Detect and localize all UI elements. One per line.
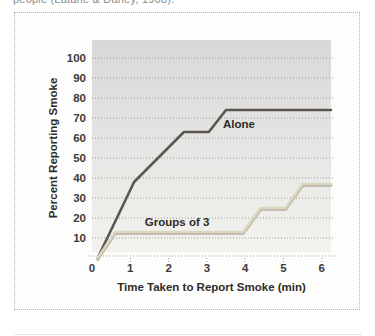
page: { "caption_top": "people (Latané & Darle…: [0, 0, 375, 336]
figure-box: [14, 12, 360, 310]
bottom-dotted-divider: [14, 334, 361, 335]
caption-top-cutoff: people (Latané & Darley, 1968).: [13, 0, 363, 5]
